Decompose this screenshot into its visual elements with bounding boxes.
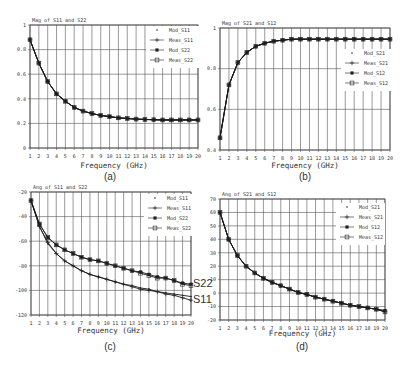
- x-tick-label: 2: [38, 320, 41, 326]
- legend-marker-icon: [153, 216, 156, 219]
- y-tick-label: -60: [18, 238, 27, 244]
- x-tick-label: 20: [382, 325, 388, 331]
- y-tick-label: 0.6: [207, 106, 216, 112]
- y-tick-label: 0.8: [207, 65, 216, 71]
- data-point: [105, 277, 109, 281]
- x-tick-label: 19: [373, 325, 379, 331]
- x-tick-label: 14: [142, 153, 148, 159]
- y-tick-label: -10: [207, 303, 216, 309]
- chart-panel-a: Mag of S11 and S2200.20.40.60.8112345678…: [17, 17, 201, 182]
- x-tick-label: 18: [177, 153, 183, 159]
- x-tick-label: 6: [72, 320, 75, 326]
- legend: Mod_S11Meas_S11Mod_S22Meas_S22: [146, 26, 200, 68]
- x-tick-label: 17: [168, 153, 174, 159]
- x-axis-label: Frequency (GHz): [271, 161, 339, 170]
- x-tick-label: 2: [227, 325, 230, 331]
- legend-entry: Mod_S12: [364, 70, 385, 77]
- legend-marker-icon: [351, 52, 353, 54]
- y-tick-label: 50: [210, 223, 216, 229]
- x-tick-label: 6: [73, 153, 76, 159]
- y-tick-label: 0.6: [17, 71, 26, 77]
- legend-entry: Meas_S12: [364, 80, 388, 87]
- y-tick-label: -20: [207, 317, 216, 323]
- legend-marker-icon: [346, 206, 348, 208]
- legend-marker-icon: [156, 29, 158, 31]
- legend-entry: Meas_S11: [169, 37, 193, 44]
- legend-entry: Mod_S22: [167, 215, 188, 222]
- x-axis-label: Frequency (GHz): [269, 329, 337, 338]
- data-point: [155, 289, 159, 293]
- data-point: [71, 264, 75, 268]
- y-tick-label: 0.4: [17, 96, 26, 102]
- y-tick-label: 30: [210, 250, 216, 256]
- x-tick-label: 7: [82, 153, 85, 159]
- chart-title: Mag of S11 and S22: [32, 17, 86, 24]
- x-tick-label: 1: [29, 320, 32, 326]
- figure-canvas: Mag of S11 and S2200.20.40.60.8112345678…: [0, 0, 403, 368]
- y-tick-label: 0.8: [17, 46, 26, 52]
- legend-entry: Mod_S11: [167, 195, 188, 202]
- x-tick-label: 17: [360, 155, 366, 161]
- legend-entry: Meas_S12: [359, 234, 383, 241]
- y-tick-label: -80: [18, 263, 27, 269]
- x-tick-label: 20: [188, 320, 194, 326]
- x-axis-label: Frequency (GHz): [77, 326, 145, 335]
- legend-marker-icon: [155, 48, 158, 51]
- legend-entry: Mod_S12: [359, 224, 380, 231]
- y-tick-label: 70: [210, 196, 216, 202]
- x-tick-label: 16: [347, 325, 353, 331]
- x-tick-label: 1: [218, 325, 221, 331]
- x-tick-label: 9: [99, 153, 102, 159]
- x-tick-label: 1: [28, 153, 31, 159]
- data-point: [190, 296, 192, 298]
- legend-entry: Meas_S22: [169, 57, 193, 64]
- y-tick-label: 60: [210, 209, 216, 215]
- y-tick-label: -20: [18, 189, 27, 195]
- legend-entry: Meas_S21: [359, 214, 383, 221]
- x-tick-label: 19: [378, 155, 384, 161]
- chart-panel-d: Ang of S21 and S12-20-100102030405060701…: [207, 191, 388, 352]
- x-tick-label: 2: [227, 155, 230, 161]
- y-tick-label: 0: [23, 145, 26, 151]
- data-point: [180, 296, 184, 300]
- legend: Mod_S21Meas_S21Mod_S12Meas_S12: [341, 49, 395, 91]
- y-tick-label: 40: [210, 236, 216, 242]
- data-point: [88, 272, 92, 276]
- x-tick-label: 5: [63, 320, 66, 326]
- y-tick-label: 0.4: [207, 147, 216, 153]
- x-tick-label: 17: [163, 320, 169, 326]
- x-tick-label: 11: [115, 153, 121, 159]
- x-tick-label: 20: [195, 153, 201, 159]
- x-tick-label: 16: [154, 320, 160, 326]
- x-tick-label: 3: [236, 155, 239, 161]
- x-tick-label: 5: [254, 155, 257, 161]
- y-tick-label: 20: [210, 263, 216, 269]
- y-tick-label: -100: [15, 287, 27, 293]
- chart-title: Ang of S11 and S22: [33, 184, 87, 191]
- legend: Mod_S11Meas_S11Mod_S22Meas_S22: [144, 194, 193, 236]
- x-tick-label: 15: [339, 325, 345, 331]
- x-tick-label: 5: [64, 153, 67, 159]
- y-tick-label: 0.2: [17, 120, 26, 126]
- legend: Mod_S21Meas_S21Mod_S12Meas_S12: [336, 203, 385, 245]
- legend-entry: Mod_S22: [169, 47, 190, 54]
- legend-entry: Mod_S21: [359, 204, 380, 211]
- x-tick-label: 15: [151, 153, 157, 159]
- chart-title: Mag of S21 and S12: [222, 20, 276, 27]
- panel-caption: (d): [296, 341, 308, 352]
- panel-caption: (c): [104, 341, 116, 352]
- x-tick-label: 6: [262, 325, 265, 331]
- y-tick-label: 10: [210, 276, 216, 282]
- x-tick-label: 20: [387, 155, 393, 161]
- data-point: [96, 275, 100, 279]
- x-tick-label: 4: [245, 155, 248, 161]
- x-tick-label: 15: [342, 155, 348, 161]
- x-tick-label: 5: [253, 325, 256, 331]
- data-point: [113, 280, 117, 284]
- chart-panel-c: Ang of S11 and S22-120-100-80-60-40-2012…: [15, 184, 213, 352]
- legend-marker-icon: [350, 71, 353, 74]
- x-tick-label: 2: [37, 153, 40, 159]
- x-tick-label: 1: [218, 155, 221, 161]
- legend-entry: Meas_S11: [167, 205, 191, 212]
- legend-entry: Meas_S21: [364, 60, 388, 67]
